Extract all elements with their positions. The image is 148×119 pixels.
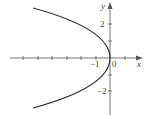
y-tick-label-2: 2 bbox=[100, 19, 105, 29]
x-tick-label-neg1: −1 bbox=[90, 59, 100, 69]
y-axis-arrow-icon bbox=[108, 2, 113, 9]
parabola-chart: y x 0 −1 2 −2 bbox=[0, 0, 148, 119]
origin-label: 0 bbox=[112, 59, 117, 69]
y-axis-label: y bbox=[100, 1, 105, 11]
y-tick-label-neg2: −2 bbox=[97, 86, 107, 96]
x-axis-label: x bbox=[136, 59, 141, 69]
